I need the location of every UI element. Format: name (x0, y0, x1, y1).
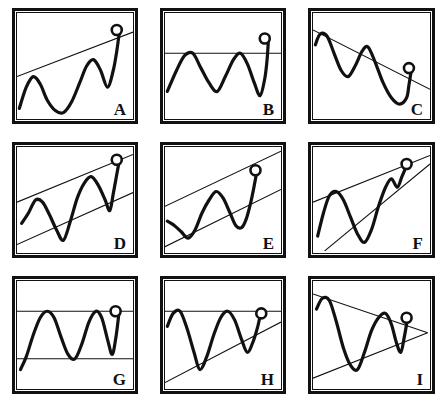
breakout-marker (402, 159, 412, 169)
pattern-panel-c: C (296, 0, 445, 134)
breakout-marker (404, 63, 414, 73)
breakout-marker (112, 25, 122, 35)
panel-outer-border: D (12, 142, 138, 258)
pattern-panel-b: B (148, 0, 296, 134)
panel-outer-border: C (308, 8, 435, 124)
breakout-marker (256, 308, 266, 318)
chart-pattern-plate: ABCDEFGHI (0, 0, 445, 404)
panel-inner-border: H (164, 280, 282, 390)
breakout-marker (260, 33, 270, 43)
breakout-marker-layer (313, 281, 430, 389)
panel-outer-border: G (12, 276, 138, 394)
panel-inner-border: D (16, 146, 134, 254)
pattern-panel-g: G (0, 268, 148, 404)
pattern-panel-f: F (296, 134, 445, 268)
panel-inner-border: G (16, 280, 134, 390)
panel-grid: ABCDEFGHI (0, 0, 445, 404)
panel-letter-label: F (413, 235, 423, 252)
panel-letter-label: D (114, 235, 126, 252)
panel-inner-border: C (312, 12, 431, 120)
breakout-marker (111, 306, 121, 316)
panel-outer-border: H (160, 276, 286, 394)
panel-letter-label: C (411, 101, 423, 118)
panel-letter-label: I (416, 371, 423, 388)
panel-outer-border: I (308, 276, 435, 394)
breakout-marker (112, 155, 122, 165)
panel-inner-border: F (312, 146, 431, 254)
panel-letter-label: E (263, 235, 274, 252)
panel-inner-border: I (312, 280, 431, 390)
panel-outer-border: A (12, 8, 138, 124)
breakout-marker (250, 165, 260, 175)
pattern-panel-i: I (296, 268, 445, 404)
panel-outer-border: E (160, 142, 286, 258)
panel-inner-border: B (164, 12, 282, 120)
panel-letter-label: A (114, 101, 126, 118)
pattern-panel-h: H (148, 268, 296, 404)
pattern-panel-a: A (0, 0, 148, 134)
panel-letter-label: B (263, 101, 274, 118)
pattern-panel-e: E (148, 134, 296, 268)
panel-outer-border: F (308, 142, 435, 258)
panel-inner-border: E (164, 146, 282, 254)
panel-letter-label: H (261, 371, 274, 388)
panel-letter-label: G (113, 371, 126, 388)
panel-inner-border: A (16, 12, 134, 120)
breakout-marker (402, 313, 412, 323)
pattern-panel-d: D (0, 134, 148, 268)
panel-outer-border: B (160, 8, 286, 124)
